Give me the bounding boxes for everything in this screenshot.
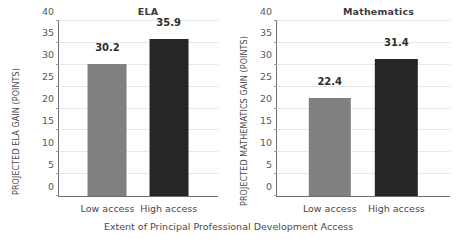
bar-value-label: 31.4 [384, 37, 409, 48]
y-axis-tick-label: 40 [42, 5, 54, 16]
gridline [59, 129, 218, 130]
y-axis-tick-mark [274, 108, 277, 109]
figure: ELA PROJECTED ELA GAIN (POINTS) 05101520… [0, 0, 457, 239]
x-axis-tick-label: High access [368, 203, 425, 214]
y-axis-tick-label: 15 [42, 114, 54, 125]
y-axis-tick-label: 30 [42, 49, 54, 60]
y-axis-tick-label: 35 [42, 27, 54, 38]
y-axis-tick-mark [274, 151, 277, 152]
y-axis-title-ela: PROJECTED ELA GAIN (POINTS) [12, 68, 21, 195]
plot-area-ela: 051015202530354030.2Low access35.9High a… [58, 21, 218, 197]
gridline [59, 108, 218, 109]
gridline [59, 64, 218, 65]
chart-panel-mathematics: Mathematics PROJECTED MATHEMATICS GAIN (… [228, 0, 457, 216]
x-axis-tick-label: Low access [303, 203, 357, 214]
bar-ela-high-access [149, 39, 188, 196]
y-axis-tick-mark [56, 20, 59, 21]
gridline [277, 64, 450, 65]
gridline [59, 86, 218, 87]
gridline [277, 129, 450, 130]
gridline [59, 42, 218, 43]
bar-math-low-access [309, 98, 351, 196]
bar-value-label: 22.4 [317, 76, 342, 87]
gridline [277, 86, 450, 87]
y-axis-tick-mark [274, 195, 277, 196]
y-axis-tick-mark [274, 86, 277, 87]
y-axis-tick-label: 10 [260, 136, 272, 147]
y-axis-tick-mark [274, 20, 277, 21]
y-axis-tick-label: 20 [42, 93, 54, 104]
y-axis-tick-label: 30 [260, 49, 272, 60]
y-axis-tick-mark [56, 86, 59, 87]
y-axis-tick-label: 0 [48, 180, 54, 191]
y-axis-tick-label: 25 [260, 71, 272, 82]
x-axis-tick-label: High access [140, 203, 197, 214]
y-axis-tick-label: 20 [260, 93, 272, 104]
y-axis-tick-label: 0 [266, 180, 272, 191]
y-axis-tick-label: 35 [260, 27, 272, 38]
bar-value-label: 35.9 [156, 17, 181, 28]
y-axis-tick-label: 40 [260, 5, 272, 16]
x-axis-tick-label: Low access [81, 203, 135, 214]
figure-x-axis-label: Extent of Principal Professional Develop… [0, 221, 457, 232]
bar-value-label: 30.2 [95, 42, 120, 53]
y-axis-tick-mark [274, 64, 277, 65]
y-axis-tick-mark [56, 151, 59, 152]
y-axis-title-mathematics: PROJECTED MATHEMATICS GAIN (POINTS) [240, 36, 249, 206]
y-axis-tick-label: 5 [266, 158, 272, 169]
y-axis-tick-mark [56, 173, 59, 174]
y-axis-tick-mark [56, 64, 59, 65]
y-axis-tick-label: 5 [48, 158, 54, 169]
gridline [277, 42, 450, 43]
plot-mathematics: 051015202530354022.4Low access31.4High a… [276, 21, 450, 197]
gridline [277, 108, 450, 109]
y-axis-tick-mark [56, 108, 59, 109]
gridline [59, 20, 218, 21]
chart-title-ela: ELA [0, 6, 260, 17]
y-axis-tick-label: 25 [42, 71, 54, 82]
gridline [59, 173, 218, 174]
bar-math-high-access [375, 59, 417, 196]
y-axis-tick-label: 10 [42, 136, 54, 147]
y-axis-tick-mark [56, 195, 59, 196]
gridline [277, 20, 450, 21]
y-axis-tick-mark [56, 42, 59, 43]
gridline [277, 151, 450, 152]
bar-ela-low-access [88, 64, 127, 196]
chart-panel-ela: ELA PROJECTED ELA GAIN (POINTS) 05101520… [0, 0, 224, 216]
gridline [277, 173, 450, 174]
gridline [59, 151, 218, 152]
plot-area-mathematics: 051015202530354022.4Low access31.4High a… [276, 21, 450, 197]
y-axis-tick-label: 15 [260, 114, 272, 125]
y-axis-tick-mark [274, 129, 277, 130]
plot-ela: 051015202530354030.2Low access35.9High a… [58, 21, 218, 197]
y-axis-tick-mark [274, 42, 277, 43]
y-axis-tick-mark [274, 173, 277, 174]
y-axis-tick-mark [56, 129, 59, 130]
